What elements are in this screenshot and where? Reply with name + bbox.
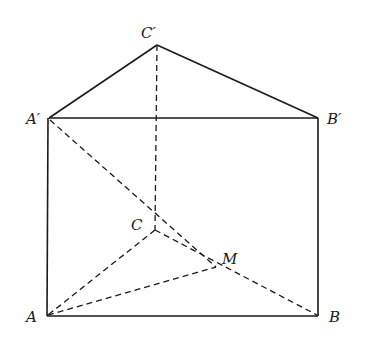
edge-ap-a <box>47 118 48 316</box>
edge-c-b <box>155 230 317 315</box>
prism-diagram: C′ A′ B′ C M A B <box>0 0 366 344</box>
label-a-prime: A′ <box>24 110 41 128</box>
edge-a-m <box>48 267 216 315</box>
edge-cp-c <box>155 45 157 230</box>
label-b: B <box>328 308 340 326</box>
label-m: M <box>221 250 238 268</box>
label-c-prime: C′ <box>141 24 156 42</box>
edge-c-a <box>48 230 155 315</box>
label-a: A <box>24 308 37 326</box>
edge-ap-cp <box>49 45 157 118</box>
label-c: C <box>131 216 143 234</box>
solid-edges <box>47 45 318 316</box>
edge-ap-m <box>50 120 216 267</box>
dashed-edges <box>48 45 317 315</box>
edge-cp-bp <box>157 45 318 118</box>
label-b-prime: B′ <box>326 110 342 128</box>
